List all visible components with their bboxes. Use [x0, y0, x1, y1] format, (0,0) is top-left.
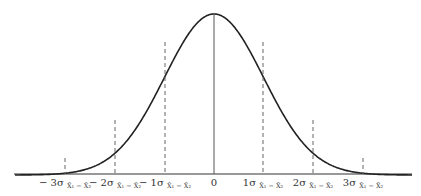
- tick-label-neg3: − 3σ X̄₁ − X̄₂: [39, 177, 91, 190]
- normal-curve-diagram: [0, 0, 421, 196]
- label-subscript: X̄₁ − X̄₂: [309, 182, 333, 190]
- label-subscript: X̄₁ − X̄₂: [359, 182, 383, 190]
- tick-label-pos1: 1σ X̄₁ − X̄₂: [243, 177, 283, 190]
- label-coef: 1σ: [243, 177, 256, 188]
- tick-label-pos2: 2σ X̄₁ − X̄₂: [293, 177, 333, 190]
- label-coef: − 3σ: [39, 177, 64, 188]
- label-coef: 3σ: [343, 177, 356, 188]
- tick-label-neg1: − 1σ X̄₁ − X̄₂: [139, 177, 191, 190]
- label-subscript: X̄₁ − X̄₂: [259, 182, 283, 190]
- label-coef: − 2σ: [89, 177, 114, 188]
- label-coef: − 1σ: [139, 177, 164, 188]
- tick-label-neg2: − 2σ X̄₁ − X̄₂: [89, 177, 141, 190]
- tick-label-pos3: 3σ X̄₁ − X̄₂: [343, 177, 383, 190]
- label-subscript: X̄₁ − X̄₂: [117, 182, 141, 190]
- label-coef: 0: [211, 177, 217, 188]
- label-coef: 2σ: [293, 177, 306, 188]
- label-subscript: X̄₁ − X̄₂: [167, 182, 191, 190]
- tick-label-zero: 0: [211, 177, 217, 188]
- label-subscript: X̄₁ − X̄₂: [67, 182, 91, 190]
